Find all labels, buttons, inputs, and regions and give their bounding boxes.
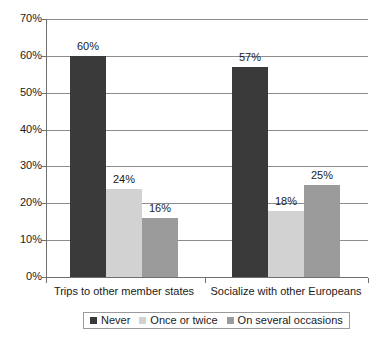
bar-value-label: 24% (100, 174, 148, 185)
gridline (46, 19, 368, 20)
bar (304, 185, 340, 277)
y-axis-tick-label: 60% (2, 50, 42, 61)
y-axis-tick-mark (41, 203, 46, 204)
chart-legend: NeverOnce or twiceOn several occasions (83, 312, 350, 329)
bar (106, 189, 142, 277)
bar-value-label: 60% (64, 41, 112, 52)
y-axis-tick-label: 30% (2, 160, 42, 171)
bar-value-label: 18% (262, 196, 310, 207)
legend-item: On several occasions (227, 315, 343, 326)
y-axis-tick-label: 20% (2, 197, 42, 208)
y-axis-tick-label: 0% (2, 271, 42, 282)
legend-swatch-icon (227, 317, 234, 324)
x-axis-line (46, 277, 368, 278)
category-axis-label: Trips to other member states (34, 285, 214, 298)
y-axis-tick-mark (41, 166, 46, 167)
bar (70, 56, 106, 277)
legend-item: Never (90, 315, 130, 326)
legend-item-label: Never (101, 315, 130, 326)
category-axis-tick (46, 278, 47, 283)
bar-value-label: 57% (226, 52, 274, 63)
legend-item: Once or twice (139, 315, 217, 326)
bar-value-label: 25% (298, 170, 346, 181)
y-axis-tick-mark (41, 56, 46, 57)
legend-swatch-icon (90, 317, 97, 324)
y-axis-tick-label: 10% (2, 234, 42, 245)
y-axis-tick-label: 40% (2, 124, 42, 135)
y-axis-tick-label: 50% (2, 87, 42, 98)
y-axis-tick-mark (41, 240, 46, 241)
legend-swatch-icon (139, 317, 146, 324)
y-axis-tick-mark (41, 93, 46, 94)
y-axis-line (46, 19, 47, 278)
bar (142, 218, 178, 277)
legend-item-label: Once or twice (150, 315, 217, 326)
category-axis-label: Socialize with other Europeans (196, 285, 376, 298)
bar-chart: 0%10%20%30%40%50%60%70% 60%24%16%57%18%2… (0, 0, 376, 337)
bar-value-label: 16% (136, 203, 184, 214)
bar (268, 211, 304, 277)
category-axis-tick (368, 278, 369, 283)
bar (232, 67, 268, 277)
category-axis-tick (205, 278, 206, 283)
y-axis-tick-mark (41, 19, 46, 20)
legend-item-label: On several occasions (238, 315, 343, 326)
y-axis-tick-mark (41, 130, 46, 131)
y-axis-tick-label: 70% (2, 13, 42, 24)
